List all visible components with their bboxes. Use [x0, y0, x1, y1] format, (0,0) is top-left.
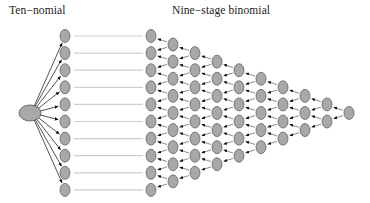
lattice-edge	[202, 116, 211, 119]
lattice-edge	[180, 73, 189, 76]
lattice-node	[212, 72, 222, 85]
ten-nomial-root-node	[19, 105, 41, 121]
lattice-node	[168, 38, 178, 51]
lattice-edge	[158, 116, 167, 119]
lattice-node	[168, 89, 178, 102]
lattice-edge	[202, 90, 211, 93]
branch-arrow	[36, 118, 61, 149]
lattice-edge	[180, 116, 189, 119]
lattice-edge	[180, 65, 189, 68]
branch-arrow	[38, 117, 60, 134]
lattice-edge	[268, 133, 277, 136]
lattice-edge	[246, 81, 255, 84]
ten-nomial-node	[60, 98, 70, 111]
lattice-edge	[290, 116, 299, 119]
ten-nomial-node	[60, 115, 70, 128]
lattice-node	[146, 166, 156, 179]
ten-nomial-node	[60, 30, 70, 43]
lattice-node	[168, 141, 178, 154]
lattice-edge	[224, 158, 233, 161]
lattice-edge	[202, 81, 211, 84]
lattice-edge	[158, 47, 167, 50]
lattice-node	[300, 106, 310, 119]
lattice-node	[234, 64, 244, 77]
lattice-node	[146, 47, 156, 60]
lattice-edge	[246, 124, 255, 127]
lattice-edge	[202, 107, 211, 110]
ten-nomial-terminal-nodes	[60, 30, 70, 197]
lattice-node	[300, 124, 310, 137]
ten-nomial-node	[60, 183, 70, 196]
lattice-edge	[224, 65, 233, 68]
lattice-edge	[224, 141, 233, 144]
lattice-node	[146, 64, 156, 77]
lattice-edge	[180, 167, 189, 170]
lattice-edge	[246, 73, 255, 76]
root-node	[19, 105, 41, 121]
lattice-node	[190, 166, 200, 179]
lattice-edge	[268, 90, 277, 93]
lattice-node	[212, 89, 222, 102]
ten-nomial-node	[60, 81, 70, 94]
lattice-edge	[180, 107, 189, 110]
panel-connector-lines	[74, 36, 143, 190]
lattice-node	[212, 106, 222, 119]
lattice-edge	[158, 184, 167, 187]
lattice-node	[278, 115, 288, 128]
ten-nomial-node	[60, 149, 70, 162]
lattice-edge	[246, 141, 255, 144]
lattice-node	[146, 149, 156, 162]
lattice-edge	[202, 73, 211, 76]
lattice-node	[234, 132, 244, 145]
lattice-edge	[246, 116, 255, 119]
lattice-edge	[224, 124, 233, 127]
lattice-node	[256, 141, 266, 154]
branch-arrow	[34, 43, 62, 107]
lattice-node	[168, 175, 178, 188]
lattice-node	[344, 106, 354, 119]
lattice-node	[190, 115, 200, 128]
lattice-edge	[224, 116, 233, 119]
lattice-edge	[246, 90, 255, 93]
lattice-edge	[202, 167, 211, 170]
branch-arrow	[39, 115, 58, 120]
lattice-node	[212, 124, 222, 137]
lattice-edge	[224, 150, 233, 153]
lattice-edge	[290, 107, 299, 110]
branch-arrow	[39, 106, 58, 111]
lattice-edge	[246, 133, 255, 136]
lattice-node	[190, 149, 200, 162]
lattice-edge	[158, 124, 167, 127]
lattice-edge	[312, 124, 321, 127]
lattice-node	[212, 158, 222, 171]
lattice-node	[146, 98, 156, 111]
lattice-node	[234, 98, 244, 111]
lattice-edge	[158, 64, 167, 67]
lattice-edge	[224, 90, 233, 93]
lattice-node	[146, 183, 156, 196]
lattice-node	[256, 124, 266, 137]
lattice-node	[168, 124, 178, 137]
lattice-edge	[202, 141, 211, 144]
lattice-edge	[202, 124, 211, 127]
lattice-edge	[246, 107, 255, 110]
lattice-edge	[268, 116, 277, 119]
lattice-edge	[180, 56, 189, 59]
lattice-node	[234, 115, 244, 128]
lattice-edge	[312, 116, 321, 119]
lattice-edge	[180, 82, 189, 85]
lattice-edge	[180, 150, 189, 153]
lattice-edge	[334, 116, 343, 119]
lattice-edge	[246, 99, 255, 102]
lattice-edge	[290, 133, 299, 136]
lattice-node	[168, 72, 178, 85]
lattice-edge	[246, 150, 255, 153]
lattice-node	[190, 47, 200, 60]
lattice-node	[190, 64, 200, 77]
figure-canvas: Ten−nomial Nine−stage binomial	[0, 0, 370, 203]
lattice-edge	[224, 133, 233, 136]
lattice-node	[278, 81, 288, 94]
lattice-edge	[180, 133, 189, 136]
lattice-edge	[202, 99, 211, 102]
lattice-node	[146, 30, 156, 43]
